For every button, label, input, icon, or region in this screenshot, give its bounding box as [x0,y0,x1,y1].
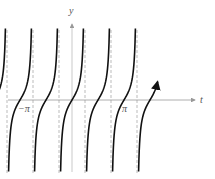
tangent-branch [139,82,158,172]
x-axis-label: t [200,95,203,105]
tangent-branch [0,29,5,133]
tangent-graph [0,0,215,179]
neg-pi-tick-label: −π [18,104,30,114]
y-axis-label: y [69,6,73,16]
pi-tick-label: π [122,104,127,114]
